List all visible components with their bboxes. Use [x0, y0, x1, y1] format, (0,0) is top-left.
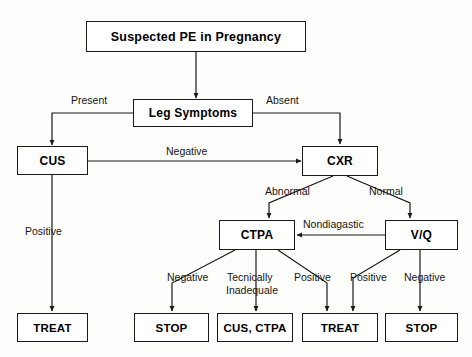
- node-label: STOP: [156, 322, 188, 334]
- node-cxr[interactable]: CXR: [302, 146, 378, 176]
- node-cus[interactable]: CUS: [17, 146, 88, 175]
- edge-label-normal: Normal: [369, 186, 403, 198]
- node-label: STOP: [406, 322, 438, 334]
- edge-label-negative-cus-cxr: Negative: [166, 146, 207, 158]
- edge-label-vq-negative: Negative: [404, 272, 445, 284]
- node-treat-left[interactable]: TREAT: [17, 313, 88, 342]
- node-cus-ctpa[interactable]: CUS, CTPA: [217, 313, 293, 342]
- node-ctpa[interactable]: CTPA: [219, 220, 295, 250]
- node-vq[interactable]: V/Q: [385, 220, 458, 250]
- node-label: CUS, CTPA: [224, 322, 287, 334]
- edge-label-ctpa-inadequate-line1: Tecnically: [227, 272, 273, 284]
- edge-label-positive-cus: Positive: [25, 226, 62, 238]
- node-label: CXR: [327, 154, 353, 168]
- node-label: TREAT: [33, 322, 71, 334]
- node-label: Leg Symptoms: [149, 106, 237, 120]
- edge-label-ctpa-negative: Negative: [167, 272, 208, 284]
- node-leg-symptoms[interactable]: Leg Symptoms: [133, 99, 253, 127]
- node-suspected-pe[interactable]: Suspected PE in Pregnancy: [86, 21, 306, 52]
- edge-label-ctpa-positive: Positive: [294, 272, 331, 284]
- node-label: V/Q: [411, 228, 432, 242]
- node-stop-ctpa-negative[interactable]: STOP: [134, 313, 209, 342]
- node-treat-right[interactable]: TREAT: [302, 313, 378, 342]
- edge-leg-to-cxr: [253, 113, 340, 144]
- edge-label-absent: Absent: [266, 95, 299, 107]
- edge-label-vq-positive: Positive: [350, 272, 387, 284]
- node-label: CTPA: [241, 228, 274, 242]
- edge-leg-to-cus: [52, 113, 133, 145]
- node-label: TREAT: [321, 322, 359, 334]
- flowchart-connectors: [0, 0, 472, 357]
- node-label: CUS: [40, 154, 66, 168]
- edge-label-ctpa-inadequate-line2: Inadequale: [226, 285, 278, 297]
- edge-label-nondiagnostic: Nondiagastic: [303, 219, 364, 231]
- node-stop-vq-negative[interactable]: STOP: [385, 313, 458, 342]
- node-label: Suspected PE in Pregnancy: [111, 30, 281, 44]
- edge-label-present: Present: [71, 95, 107, 107]
- flowchart-canvas: Suspected PE in Pregnancy Leg Symptoms C…: [0, 0, 472, 357]
- edge-label-abnormal: Abnormal: [265, 186, 310, 198]
